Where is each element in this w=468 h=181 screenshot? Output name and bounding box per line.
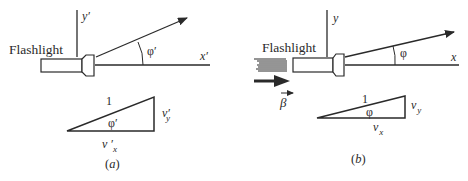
flashlight-label: Flashlight	[262, 40, 316, 55]
motion-lines-icon	[254, 59, 287, 71]
vy-prime-label: v′y	[162, 106, 170, 123]
y-prime-axis-label: y′	[81, 9, 90, 23]
velocity-triangle-b: 1 φ vy vx	[317, 92, 421, 137]
vx-prime-label: v ′x	[102, 137, 117, 154]
velocity-arrow-icon	[254, 75, 290, 87]
y-axis-label: y	[332, 11, 339, 25]
panel-b: y Flashlight x φ β 1 φ	[254, 10, 459, 166]
hypotenuse-label: 1	[106, 94, 112, 108]
beta-label: β	[279, 95, 287, 110]
velocity-triangle-a: 1 φ′ v′y v ′x	[67, 94, 170, 154]
x-prime-axis-label: x′	[199, 49, 208, 63]
caption-a: (a)	[105, 157, 120, 171]
angle-arc	[138, 42, 143, 65]
triangle-angle-label: φ	[366, 105, 373, 119]
panel-a: y′ Flashlight x′ φ′ 1 φ′ v′y v ′x (a)	[9, 9, 210, 171]
angle-label: φ	[400, 46, 407, 60]
flashlight-label: Flashlight	[9, 42, 63, 57]
angle-arc	[393, 46, 395, 65]
caption-b: (b)	[351, 152, 366, 166]
vy-label: vy	[411, 98, 421, 115]
vx-label: vx	[373, 120, 383, 137]
flashlight-icon	[41, 55, 94, 76]
flashlight-icon	[293, 54, 344, 76]
angle-label: φ′	[147, 44, 157, 58]
diagram-canvas: y′ Flashlight x′ φ′ 1 φ′ v′y v ′x (a) y …	[0, 0, 468, 181]
triangle-angle-label: φ′	[108, 116, 118, 130]
x-axis-label: x	[450, 50, 457, 64]
hypotenuse-label: 1	[362, 92, 368, 106]
